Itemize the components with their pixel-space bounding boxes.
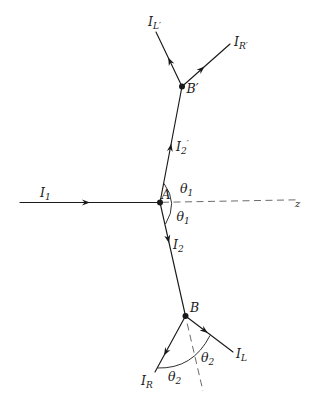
diagram-canvas: I1 I2′ I2 IL′ IR′ IL IR A B B′ θ1 θ1 θ2 … xyxy=(0,0,315,407)
label-il: IL xyxy=(235,346,247,363)
label-ir-prime: IR′ xyxy=(233,34,248,51)
label-vertex-b: B xyxy=(189,300,199,315)
label-theta1-lower: θ1 xyxy=(177,209,190,226)
arrowhead-il xyxy=(200,326,208,333)
ray-ir xyxy=(155,316,186,372)
z-axis-dashed-line xyxy=(162,200,298,203)
label-theta2-right: θ2 xyxy=(201,350,215,367)
vertex-dot-b-prime xyxy=(179,84,185,90)
label-theta2-left: θ2 xyxy=(168,369,182,386)
label-vertex-b-prime: B′ xyxy=(186,81,199,96)
label-i2-prime: I2′ xyxy=(175,139,189,156)
vertex-dot-b xyxy=(183,313,189,319)
label-ir: IR xyxy=(140,373,153,390)
label-theta1-upper: θ1 xyxy=(180,181,193,198)
arrowhead-ir xyxy=(164,347,170,355)
label-z-axis: z xyxy=(294,198,301,209)
label-i1: I1 xyxy=(39,185,51,202)
label-vertex-a: A xyxy=(161,187,171,202)
label-i2: I2 xyxy=(172,237,184,254)
label-il-prime: IL′ xyxy=(147,14,161,31)
ray-scattering-diagram: I1 I2′ I2 IL′ IR′ IL IR A B B′ θ1 θ1 θ2 … xyxy=(0,0,315,407)
